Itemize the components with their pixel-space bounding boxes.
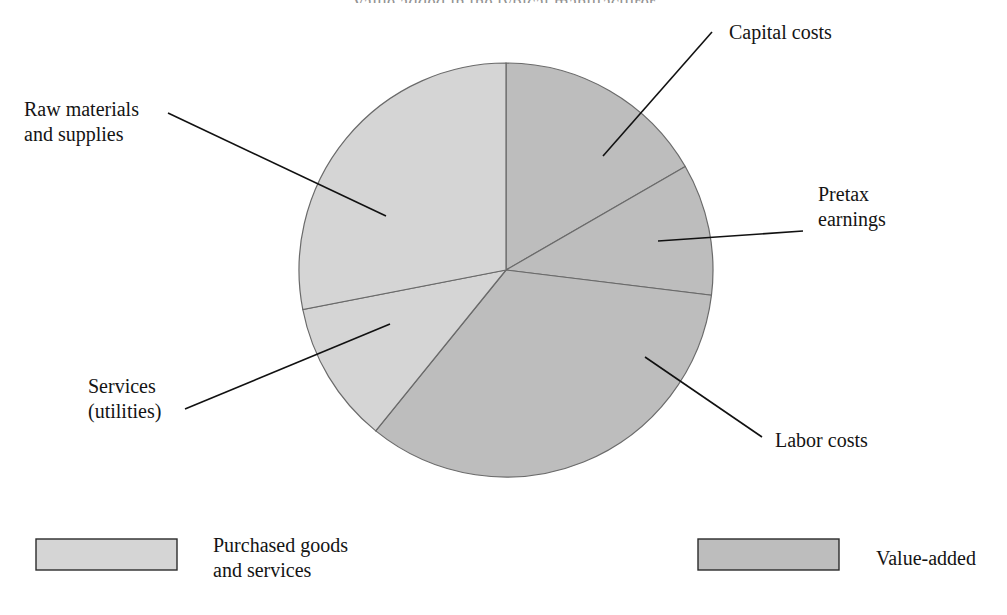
pie-slice-raw-materials-and-supplies xyxy=(299,63,506,310)
legend-swatches xyxy=(36,539,839,570)
callout-label-pretax-earnings: Pretax earnings xyxy=(818,182,886,232)
callout-label-raw-materials: Raw materials and supplies xyxy=(24,97,139,147)
legend-swatch-purchased-goods xyxy=(36,539,177,570)
legend-swatch-value-added xyxy=(698,539,839,570)
legend-label-value-added: Value-added xyxy=(876,546,976,571)
callout-label-capital-costs: Capital costs xyxy=(729,20,832,45)
pie-chart-figure xyxy=(0,0,1007,615)
callout-label-labor-costs: Labor costs xyxy=(775,428,868,453)
chart-canvas: Value added in the typical manufacturer … xyxy=(0,0,1007,615)
pie-slices xyxy=(299,63,713,477)
callout-label-services: Services (utilities) xyxy=(88,374,161,424)
legend-label-purchased-goods: Purchased goods and services xyxy=(213,533,348,583)
